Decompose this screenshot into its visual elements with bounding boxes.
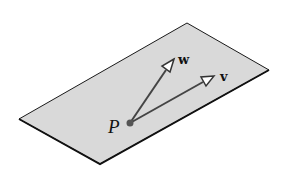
diagram-canvas: P w v xyxy=(0,0,289,180)
plane xyxy=(19,23,269,164)
point-p-dot xyxy=(127,120,134,127)
vector-v-label: v xyxy=(219,69,228,84)
point-p-label: P xyxy=(107,116,120,137)
vector-w-label: w xyxy=(177,52,190,67)
